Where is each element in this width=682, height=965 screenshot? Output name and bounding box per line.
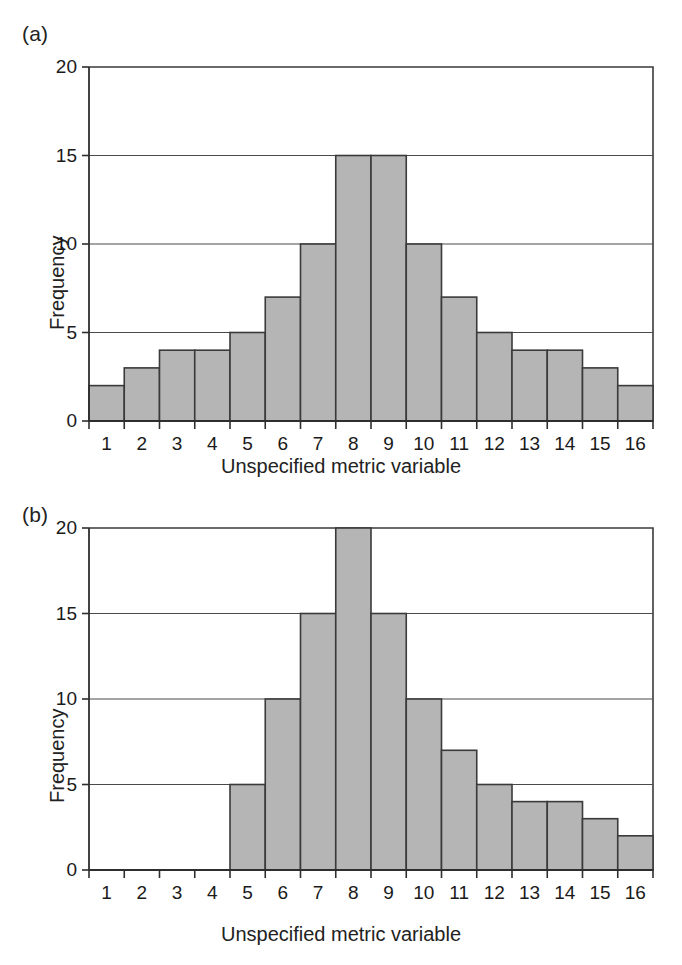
x-axis-tick-label: 3 [172,882,183,903]
x-axis-tick-label: 8 [348,433,359,454]
panel-a: (a) Frequency 05101520123456789101112131… [0,0,682,482]
x-axis-tick-label: 14 [554,433,576,454]
panel-a-plot: 0510152012345678910111213141516 [0,0,682,482]
histogram-bar [371,156,406,422]
histogram-bar [301,244,336,421]
histogram-bar [230,785,265,871]
histogram-bar [442,297,477,421]
histogram-bar [195,350,230,421]
histogram-bar [512,350,547,421]
x-axis-tick-label: 13 [519,882,540,903]
x-axis-tick-label: 4 [207,882,218,903]
x-axis-tick-label: 7 [313,433,324,454]
y-axis-tick-label: 10 [56,688,77,709]
x-axis-tick-label: 13 [519,433,540,454]
y-axis-tick-label: 5 [66,322,77,343]
histogram-bar [265,297,300,421]
y-axis-tick-label: 10 [56,233,77,254]
x-axis-tick-label: 12 [484,882,505,903]
x-axis-tick-label: 10 [413,882,434,903]
histogram-bar [160,350,195,421]
y-axis-tick-label: 5 [66,774,77,795]
x-axis-tick-label: 2 [137,882,148,903]
histogram-bar [124,368,159,421]
histogram-bar [477,333,512,422]
histogram-figure: (a) Frequency 05101520123456789101112131… [0,0,682,965]
histogram-bar [477,785,512,871]
histogram-bar [512,802,547,870]
x-axis-tick-label: 11 [449,882,469,903]
x-axis-tick-label: 10 [413,433,434,454]
x-axis-tick-label: 1 [101,882,112,903]
histogram-bar [583,368,618,421]
x-axis-tick-label: 15 [590,433,611,454]
histogram-bar [89,386,124,421]
histogram-bar [583,819,618,870]
histogram-bar [406,244,441,421]
histogram-bar [406,699,441,870]
y-axis-tick-label: 0 [66,859,77,880]
x-axis-tick-label: 16 [625,433,646,454]
x-axis-tick-label: 6 [278,433,289,454]
x-axis-tick-label: 5 [242,882,253,903]
panel-a-x-axis-label: Unspecified metric variable [0,455,682,478]
histogram-bar [442,750,477,870]
histogram-bar [301,614,336,871]
x-axis-tick-label: 9 [383,433,394,454]
x-axis-tick-label: 14 [554,882,576,903]
histogram-bar [618,386,653,421]
x-axis-tick-label: 6 [278,882,289,903]
x-axis-tick-label: 9 [383,882,394,903]
panel-b-plot: 0510152012345678910111213141516 [0,483,682,965]
x-axis-tick-label: 12 [484,433,505,454]
x-axis-tick-label: 1 [101,433,112,454]
x-axis-tick-label: 11 [449,433,469,454]
x-axis-tick-label: 8 [348,882,359,903]
histogram-bar [547,350,582,421]
histogram-bar [336,156,371,422]
y-axis-tick-label: 15 [56,145,77,166]
panel-b-x-axis-label: Unspecified metric variable [0,923,682,946]
x-axis-tick-label: 7 [313,882,324,903]
x-axis-tick-label: 5 [242,433,253,454]
x-axis-tick-label: 15 [590,882,611,903]
histogram-bar [371,614,406,871]
x-axis-tick-label: 16 [625,882,646,903]
y-axis-tick-label: 20 [56,56,77,77]
histogram-bar [618,836,653,870]
histogram-bar [547,802,582,870]
x-axis-tick-label: 2 [137,433,148,454]
y-axis-tick-label: 20 [56,517,77,538]
panel-b: (b) Frequency 05101520123456789101112131… [0,483,682,965]
y-axis-tick-label: 15 [56,603,77,624]
x-axis-tick-label: 4 [207,433,218,454]
x-axis-tick-label: 3 [172,433,183,454]
histogram-bar [336,528,371,870]
y-axis-tick-label: 0 [66,410,77,431]
histogram-bar [230,333,265,422]
histogram-bar [265,699,300,870]
